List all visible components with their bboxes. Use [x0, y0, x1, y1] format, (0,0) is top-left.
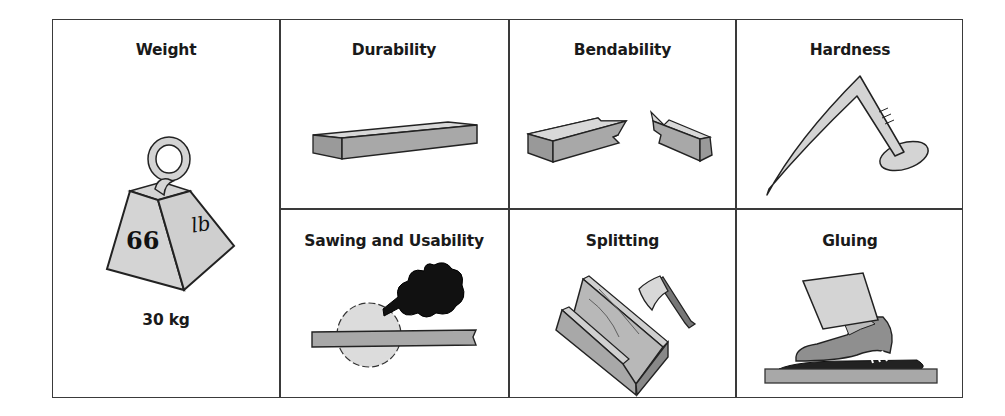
bent-nail-icon: [737, 19, 963, 209]
weight-caption: 30 kg: [52, 311, 280, 329]
cell-hardness: Hardness: [737, 19, 963, 209]
circular-saw-smoke-icon: [280, 209, 508, 398]
split-wood-axe-icon: [509, 209, 736, 398]
svg-text:lb: lb: [189, 211, 212, 238]
cell-weight: Weight 66 lb 30 kg: [52, 19, 280, 398]
cell-splitting: Splitting: [509, 209, 736, 398]
svg-text:66: 66: [126, 226, 159, 255]
broken-plank-icon: [509, 19, 736, 209]
plank-icon: [280, 19, 508, 209]
cell-bendability: Bendability: [509, 19, 736, 209]
cell-sawing: Sawing and Usability: [280, 209, 508, 398]
cell-gluing: Gluing: [737, 209, 963, 398]
cell-durability: Durability: [280, 19, 508, 209]
weight-icon: 66 lb: [52, 19, 280, 398]
shoe-glue-icon: [737, 209, 963, 398]
